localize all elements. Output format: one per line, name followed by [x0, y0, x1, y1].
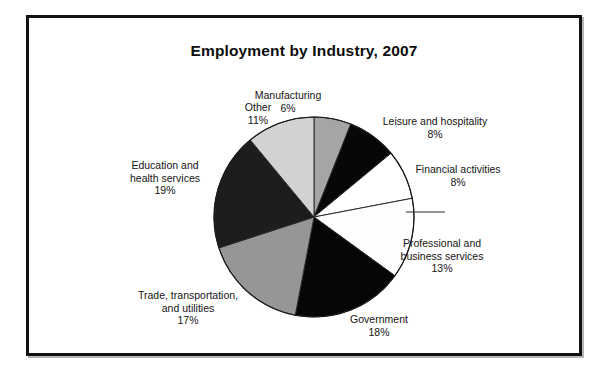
slice-label-government-pct: 18%: [350, 326, 408, 339]
slice-label-manufacturing-text: Manufacturing: [255, 89, 322, 101]
slice-label-education-text-line1: Education and: [131, 159, 198, 171]
slice-label-financial-text: Financial activities: [415, 163, 500, 175]
slice-label-government: Government 18%: [350, 313, 408, 338]
slice-label-trade-transportation-and-utilities: Trade, transportation, and utilities 17%: [138, 289, 238, 327]
slice-label-leisure-text: Leisure and hospitality: [383, 115, 487, 127]
slice-label-government-text: Government: [350, 313, 408, 325]
slice-label-other-text: Other: [245, 101, 271, 113]
slice-label-leisure-pct: 8%: [383, 128, 487, 141]
slice-label-professional-pct: 13%: [401, 262, 484, 275]
chart-title: Employment by Industry, 2007: [29, 42, 579, 60]
slice-label-leisure-and-hospitality: Leisure and hospitality 8%: [383, 115, 487, 140]
slice-label-trade-text-line1: Trade, transportation,: [138, 289, 238, 301]
slice-label-education-pct: 19%: [130, 184, 200, 197]
slice-label-trade-text-line2: and utilities: [162, 302, 215, 314]
slice-label-other-pct: 11%: [245, 114, 271, 127]
slice-label-other: Other 11%: [245, 101, 271, 126]
slice-label-trade-pct: 17%: [138, 314, 238, 327]
slice-label-professional-text-line2: business services: [401, 250, 484, 262]
slice-label-education-and-health-services: Education and health services 19%: [130, 159, 200, 197]
slice-label-professional-text-line1: Professional and: [403, 237, 481, 249]
slice-label-education-text-line2: health services: [130, 172, 200, 184]
slice-label-professional-and-business-services: Professional and business services 13%: [401, 237, 484, 275]
slice-label-financial-pct: 8%: [415, 176, 500, 189]
slice-label-financial-activities: Financial activities 8%: [415, 163, 500, 188]
